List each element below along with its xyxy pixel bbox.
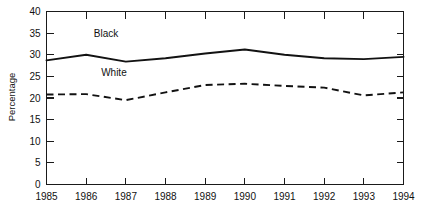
series-line-black xyxy=(47,50,404,62)
y-tick-label: 35 xyxy=(29,28,41,39)
y-tick-label: 15 xyxy=(29,114,41,125)
y-tick-label: 25 xyxy=(29,71,41,82)
x-tick-label: 1985 xyxy=(35,191,58,202)
line-chart: Percentage 0510152025303540 198519861987… xyxy=(0,0,424,215)
series-labels: BlackWhite xyxy=(94,28,127,79)
x-tick-label: 1986 xyxy=(75,191,98,202)
series-layer xyxy=(47,50,404,101)
y-tick-labels: 0510152025303540 xyxy=(29,6,41,190)
x-tick-label: 1987 xyxy=(115,191,138,202)
y-axis-title: Percentage xyxy=(6,73,17,122)
y-axis-ticks-right xyxy=(397,12,404,185)
x-tick-label: 1991 xyxy=(273,191,296,202)
x-tick-label: 1988 xyxy=(154,191,177,202)
y-tick-label: 0 xyxy=(35,179,41,190)
chart-container: Percentage 0510152025303540 198519861987… xyxy=(0,0,424,215)
x-tick-label: 1989 xyxy=(194,191,217,202)
x-tick-label: 1990 xyxy=(234,191,257,202)
x-tick-label: 1992 xyxy=(313,191,336,202)
y-axis-ticks xyxy=(47,12,54,185)
x-tick-label: 1994 xyxy=(392,191,415,202)
series-label-white: White xyxy=(101,67,127,78)
y-tick-label: 40 xyxy=(29,6,41,17)
x-tick-label: 1993 xyxy=(353,191,376,202)
y-tick-label: 10 xyxy=(29,136,41,147)
series-line-white xyxy=(47,84,404,100)
x-tick-labels: 1985198619871988198919901991199219931994 xyxy=(35,191,415,202)
y-tick-label: 20 xyxy=(29,93,41,104)
x-axis-ticks-top xyxy=(86,12,364,19)
y-tick-label: 30 xyxy=(29,49,41,60)
y-tick-label: 5 xyxy=(35,157,41,168)
x-axis-ticks-bottom xyxy=(86,178,364,185)
series-label-black: Black xyxy=(94,28,119,39)
